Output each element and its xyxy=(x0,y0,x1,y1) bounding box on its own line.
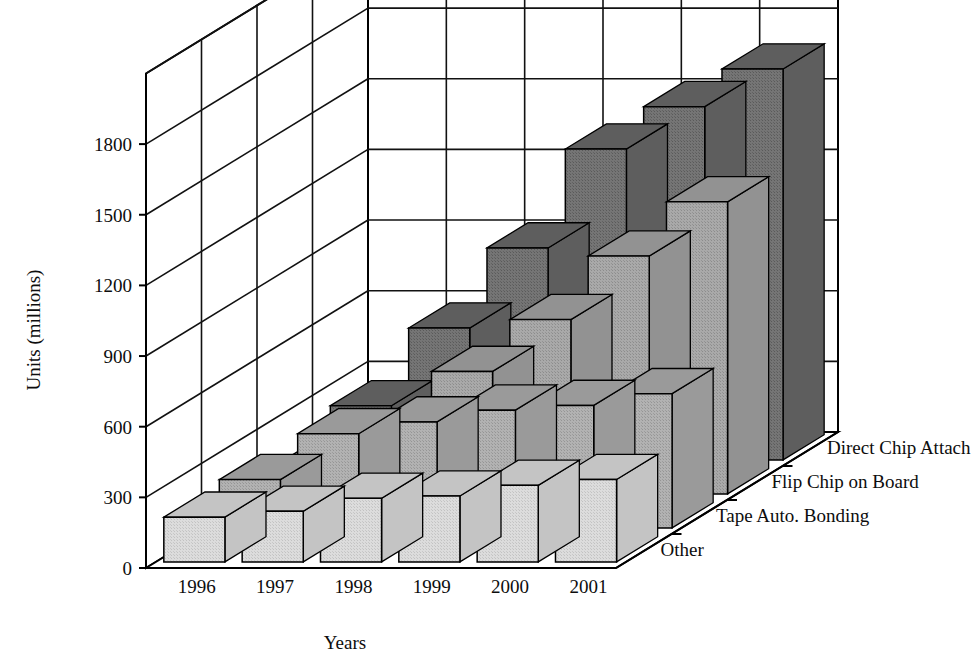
legend-label-flip-chip-on-board: Flip Chip on Board xyxy=(772,471,920,492)
y-tick-label: 1500 xyxy=(94,205,132,226)
y-tick-label: 0 xyxy=(123,558,133,579)
x-tick-label-1996: 1996 xyxy=(178,576,216,597)
x-tick-label-2000: 2000 xyxy=(491,576,529,597)
y-axis-title: Units (millions) xyxy=(23,270,45,391)
legend-label-tape-auto-bonding: Tape Auto. Bonding xyxy=(716,505,870,526)
legend-label-direct-chip-attach: Direct Chip Attach xyxy=(827,437,971,458)
x-tick-label-1999: 1999 xyxy=(413,576,451,597)
legend-label-other: Other xyxy=(661,539,705,560)
bar-chart-3d: 0300600900120015001800Units (millions)19… xyxy=(0,0,977,671)
x-tick-label-1997: 1997 xyxy=(256,576,294,597)
y-tick-label: 1800 xyxy=(94,134,132,155)
y-tick-label: 1200 xyxy=(94,275,132,296)
chart-container: 0300600900120015001800Units (millions)19… xyxy=(0,0,977,671)
y-tick-label: 300 xyxy=(104,487,133,508)
y-tick-label: 900 xyxy=(104,346,133,367)
x-tick-label-1998: 1998 xyxy=(334,576,372,597)
x-axis-title: Years xyxy=(324,632,366,653)
x-tick-label-2001: 2001 xyxy=(569,576,607,597)
y-tick-label: 600 xyxy=(104,417,133,438)
